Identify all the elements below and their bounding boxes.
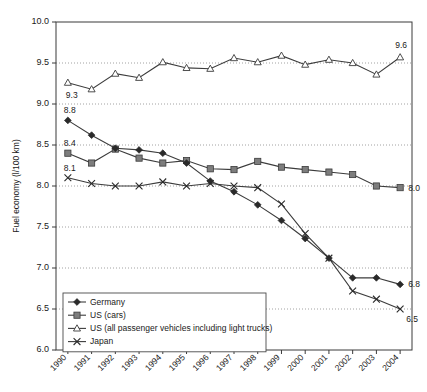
data-point (373, 274, 380, 281)
data-point (160, 160, 166, 166)
data-point (373, 71, 380, 77)
x-tick-label: 2003 (356, 352, 377, 373)
fuel-economy-line-chart: 10.09.59.08.58.07.57.06.56.0199019911992… (0, 0, 427, 392)
data-point (326, 169, 332, 175)
data-point-label: 8.4 (64, 138, 76, 148)
data-point (397, 54, 404, 60)
chart-legend: GermanyUS (cars)US (all passenger vehicl… (63, 293, 273, 352)
x-tick-label: 1993 (119, 352, 140, 373)
x-tick-label: 1992 (95, 352, 116, 373)
y-tick-label: 9.0 (36, 98, 49, 108)
x-tick-label: 1991 (72, 352, 93, 373)
data-point (65, 150, 71, 156)
data-point (397, 281, 404, 288)
data-point (136, 147, 143, 154)
series-us-cars (65, 146, 403, 191)
chart-canvas: 10.09.59.08.58.07.57.06.56.0199019911992… (0, 0, 427, 392)
data-point (373, 296, 380, 303)
y-tick-label: 6.0 (36, 344, 49, 354)
data-point (88, 132, 95, 139)
y-tick-label: 10.0 (31, 16, 49, 26)
legend-label: Germany (90, 297, 126, 307)
data-point (278, 201, 285, 208)
y-tick-label: 8.5 (36, 139, 49, 149)
x-tick-label: 1998 (238, 352, 259, 373)
data-point (64, 79, 71, 85)
data-point (136, 155, 142, 161)
legend-label: Japan (90, 336, 113, 346)
data-point-label: 8.0 (408, 183, 420, 193)
data-point-label: 6.8 (408, 279, 420, 289)
x-tick-label: 1994 (143, 352, 164, 373)
x-tick-label: 1995 (166, 352, 187, 373)
y-axis-title: Fuel economy (l/100 km) (11, 139, 21, 233)
data-point-label: 8.1 (64, 163, 76, 173)
x-tick-label: 2001 (309, 352, 330, 373)
data-point (397, 185, 403, 191)
x-tick-label: 1990 (48, 352, 69, 373)
series-us-all-passenger-vehicles-including-light-trucks (64, 52, 403, 92)
data-point (278, 164, 284, 170)
data-point (112, 70, 119, 76)
data-point (231, 54, 238, 60)
data-point-label: 9.6 (395, 40, 407, 50)
data-point (350, 171, 356, 177)
x-tick-label: 2002 (333, 352, 354, 373)
data-point (64, 174, 71, 181)
data-point (231, 167, 237, 173)
data-point-label: 9.3 (66, 90, 78, 100)
data-point-label: 6.5 (406, 314, 418, 324)
legend-label: US (all passenger vehicles including lig… (90, 323, 273, 333)
x-tick-label: 2004 (380, 352, 401, 373)
data-point (254, 201, 261, 208)
data-point (302, 167, 308, 173)
legend-label: US (cars) (90, 310, 126, 320)
data-point (278, 52, 285, 58)
x-tick-label: 1996 (190, 352, 211, 373)
y-tick-label: 9.5 (36, 57, 49, 67)
data-point-label: 8.8 (64, 105, 76, 115)
data-point (349, 288, 356, 295)
legend-marker-filled-square (74, 312, 80, 318)
x-tick-label: 2000 (285, 352, 306, 373)
x-tick-label: 1999 (261, 352, 282, 373)
data-point (373, 183, 379, 189)
y-tick-label: 7.5 (36, 221, 49, 231)
data-point (231, 188, 238, 195)
data-point (159, 150, 166, 157)
y-tick-label: 8.0 (36, 180, 49, 190)
series-germany (64, 117, 403, 288)
data-point (159, 59, 166, 65)
data-point (64, 117, 71, 124)
y-tick-label: 6.5 (36, 303, 49, 313)
data-point (255, 158, 261, 164)
data-point (325, 56, 332, 62)
x-tick-label: 1997 (214, 352, 235, 373)
data-point (89, 160, 95, 166)
y-tick-label: 7.0 (36, 262, 49, 272)
data-point (207, 166, 213, 172)
data-point (397, 306, 404, 313)
